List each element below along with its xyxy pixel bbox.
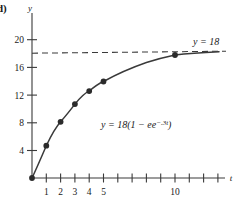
y-tick-labels-group: 4 8 12 16 20 [15, 35, 25, 156]
y-tick-label-8: 8 [19, 118, 24, 128]
graph-canvas: y t 4 8 12 16 20 [0, 0, 237, 201]
x-tick-labels-group: 1 2 3 4 5 10 [44, 187, 180, 197]
equation-main: y = 18(1 − e [100, 119, 152, 131]
y-axis-label: y [27, 3, 32, 13]
data-point-t1 [43, 143, 49, 149]
data-point-t10 [172, 52, 178, 58]
part-label: d) [0, 2, 7, 14]
data-points-group [29, 52, 178, 181]
y-tick-label-4: 4 [19, 146, 24, 156]
data-point-t0 [29, 175, 35, 181]
equation-tail: ) [167, 119, 172, 131]
asymptote-label: y = 18 [192, 36, 219, 47]
x-tick-label-4: 4 [87, 187, 92, 197]
x-tick-label-10: 10 [170, 187, 180, 197]
y-tick-label-12: 12 [15, 91, 25, 101]
exponential-growth-figure: d) y t 4 8 12 16 20 [0, 0, 237, 201]
svg-text:y = 18(1 − ee−.3t): y = 18(1 − ee−.3t) [100, 119, 172, 131]
data-point-t4 [86, 88, 92, 94]
y-tick-label-16: 16 [15, 63, 25, 73]
x-tick-label-5: 5 [101, 187, 106, 197]
x-tick-label-3: 3 [73, 187, 78, 197]
exponential-curve [32, 52, 219, 178]
x-tick-label-2: 2 [58, 187, 63, 197]
data-point-t3 [72, 101, 78, 107]
data-point-t5 [101, 79, 107, 85]
y-tick-label-20: 20 [15, 35, 25, 45]
equation-annotation: y = 18(1 − ee−.3t) [100, 119, 172, 131]
x-tick-label-1: 1 [44, 187, 49, 197]
data-point-t2 [58, 119, 64, 125]
x-axis-label: t [230, 173, 233, 183]
